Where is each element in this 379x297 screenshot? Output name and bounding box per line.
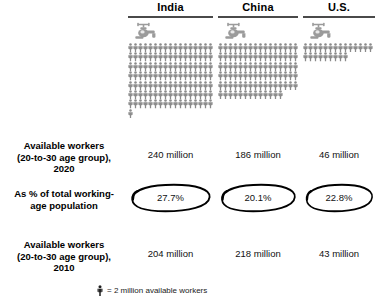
person-icon bbox=[293, 43, 298, 52]
row-label-line: age population bbox=[4, 200, 124, 212]
person-icon bbox=[293, 81, 298, 90]
person-icon bbox=[293, 62, 298, 71]
pictogram-group-india bbox=[128, 22, 213, 118]
person-icon bbox=[278, 90, 283, 99]
person-grid bbox=[128, 43, 213, 118]
cell-workers-2020-india: 240 million bbox=[128, 149, 213, 161]
row-label-line: (20-to-30 age group), bbox=[4, 152, 124, 164]
pct-value-china: 20.1% bbox=[218, 192, 298, 204]
person-icon bbox=[208, 71, 213, 80]
column-header-label: U.S. bbox=[303, 0, 375, 14]
row-label-line: (20-to-30 age group), bbox=[4, 251, 124, 263]
pictogram-group-us bbox=[303, 22, 375, 62]
person-grid bbox=[303, 43, 375, 62]
column-header-rule bbox=[218, 16, 298, 18]
row-label-line: Available workers bbox=[4, 239, 124, 251]
person-icon bbox=[343, 52, 348, 61]
person-icon bbox=[368, 43, 373, 52]
column-header-china: China bbox=[218, 0, 298, 18]
person-icon bbox=[208, 90, 213, 99]
pct-value-india: 27.7% bbox=[128, 192, 213, 204]
cell-workers-2020-us: 46 million bbox=[303, 149, 375, 161]
row-label-line: 2020 bbox=[4, 163, 124, 175]
faucet-icon bbox=[220, 22, 250, 41]
person-icon bbox=[128, 109, 133, 118]
row-label-workers-2010: Available workers (20-to-30 age group), … bbox=[4, 239, 124, 274]
person-icon bbox=[208, 43, 213, 52]
cell-workers-2020-china: 186 million bbox=[218, 149, 298, 161]
cell-workers-2010-china: 218 million bbox=[218, 248, 298, 260]
row-label-workers-2020: Available workers (20-to-30 age group), … bbox=[4, 140, 124, 175]
legend: = 2 million available workers bbox=[97, 285, 207, 296]
row-label-line: 2010 bbox=[4, 262, 124, 274]
cell-pct-china: 20.1% bbox=[218, 183, 298, 213]
person-icon bbox=[208, 99, 213, 108]
column-header-label: China bbox=[218, 0, 298, 14]
person-icon bbox=[293, 52, 298, 61]
column-header-rule bbox=[128, 16, 213, 18]
row-label-pct-working-age: As % of total working- age population bbox=[4, 188, 124, 211]
column-header-label: India bbox=[128, 0, 213, 14]
pictogram-group-china bbox=[218, 22, 298, 99]
column-header-rule bbox=[303, 16, 375, 18]
cell-pct-india: 27.7% bbox=[128, 183, 213, 213]
column-header-india: India bbox=[128, 0, 213, 18]
column-header-us: U.S. bbox=[303, 0, 375, 18]
infographic-canvas: India China U.S. Available workers (20-t… bbox=[0, 0, 379, 297]
person-icon bbox=[208, 62, 213, 71]
row-label-line: Available workers bbox=[4, 140, 124, 152]
person-icon bbox=[208, 81, 213, 90]
row-label-line: As % of total working- bbox=[4, 188, 124, 200]
person-icon bbox=[208, 52, 213, 61]
faucet-icon bbox=[130, 22, 160, 41]
cell-pct-us: 22.8% bbox=[303, 183, 375, 213]
cell-workers-2010-us: 43 million bbox=[303, 248, 375, 260]
faucet-icon bbox=[305, 22, 335, 41]
person-icon bbox=[293, 71, 298, 80]
person-icon bbox=[97, 285, 103, 296]
pct-value-us: 22.8% bbox=[303, 192, 375, 204]
cell-workers-2010-india: 204 million bbox=[128, 248, 213, 260]
legend-label: = 2 million available workers bbox=[107, 286, 207, 296]
person-grid bbox=[218, 43, 298, 99]
